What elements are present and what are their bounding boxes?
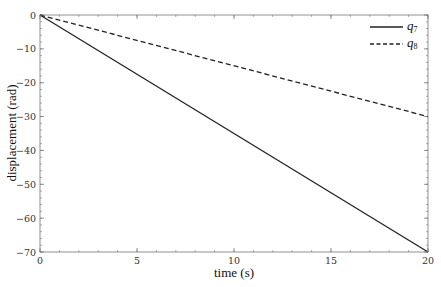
series-line-q8: [40, 15, 428, 117]
tick-labels: 051015200−10−20−30−40−50−60−70: [16, 10, 434, 267]
y-tick-label: −70: [16, 247, 36, 258]
x-tick-label: 5: [134, 255, 140, 266]
line-chart: 051015200−10−20−30−40−50−60−70 time (s) …: [0, 0, 441, 287]
x-tick-label: 0: [37, 255, 43, 266]
legend-label-q8: q8: [407, 35, 418, 51]
x-tick-label: 15: [325, 255, 337, 266]
series-line-q7: [40, 15, 428, 252]
x-tick-label: 20: [422, 255, 434, 266]
y-tick-label: 0: [30, 10, 36, 21]
y-tick-label: −60: [16, 213, 36, 224]
y-axis-title: displacement (rad): [4, 84, 19, 181]
legend: q7q8: [370, 18, 418, 51]
series-layer: [40, 15, 428, 252]
y-tick-label: −10: [16, 43, 36, 54]
x-axis-title: time (s): [214, 265, 254, 280]
legend-label-q7: q7: [407, 18, 418, 34]
